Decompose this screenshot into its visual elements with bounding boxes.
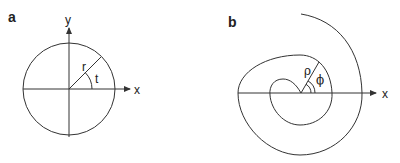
panel-a: a x y r t — [8, 9, 140, 137]
y-axis-label: y — [65, 13, 71, 27]
figure: a x y r t b x ρ ϕ — [0, 0, 400, 163]
panel-label-a: a — [8, 9, 16, 25]
angle-arc — [85, 73, 92, 89]
spiral-curve — [238, 14, 362, 155]
x-axis-label: x — [382, 87, 388, 101]
x-axis-label: x — [134, 83, 140, 97]
angle-label: ϕ — [316, 73, 324, 87]
angle-label: t — [95, 72, 99, 86]
radius-label: ρ — [304, 64, 311, 78]
radius-label: r — [82, 60, 86, 74]
panel-label-b: b — [228, 14, 237, 30]
angle-arc-inner — [306, 84, 311, 93]
panel-b: b x ρ ϕ — [228, 14, 388, 155]
